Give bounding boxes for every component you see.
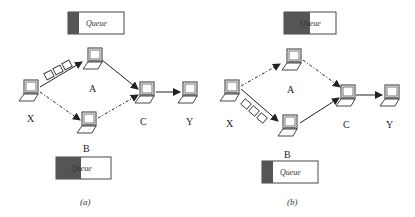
queue-b-bottom: Queue	[56, 157, 111, 179]
caption-a: (a)	[80, 197, 91, 207]
queue-b-bottom: Queue	[262, 161, 318, 183]
queue-a-top: Queue	[68, 12, 124, 34]
edge-a-c	[303, 60, 340, 87]
packets	[241, 99, 268, 124]
laptop-icon-y	[380, 85, 399, 106]
node-label-a: A	[89, 83, 97, 94]
laptop-icon-x	[220, 80, 239, 101]
laptop-icon-c	[336, 85, 355, 106]
edge-a-c	[102, 60, 138, 89]
node-label-x: X	[226, 118, 234, 129]
laptop-icon-c	[135, 82, 154, 103]
node-label-c: C	[343, 119, 350, 130]
laptop-icon-a	[282, 49, 301, 70]
diagram-b: Queue X A B C Y Queue (b)	[220, 12, 399, 207]
edge-b-c	[98, 95, 138, 118]
queue-label: Queue	[86, 19, 107, 28]
node-label-a: A	[287, 84, 295, 95]
node-label-y: Y	[386, 119, 393, 130]
diagram-a: Queue X A B C Y Queue (a)	[19, 12, 197, 207]
edge-x-b	[40, 92, 80, 120]
edge-x-a	[241, 64, 280, 86]
laptop-icon-x	[19, 80, 38, 101]
caption-b: (b)	[287, 197, 298, 207]
node-label-b: B	[83, 143, 90, 154]
laptop-icon-b	[77, 112, 96, 133]
node-label-x: X	[27, 113, 35, 124]
node-label-y: Y	[186, 116, 193, 127]
network-diagram: Queue X A B C Y Queue (a)	[0, 0, 415, 217]
edge-b-c	[300, 98, 339, 123]
node-label-c: C	[140, 116, 147, 127]
laptop-icon-y	[178, 82, 197, 103]
queue-label: Queue	[300, 19, 321, 28]
node-label-b: B	[284, 149, 291, 160]
laptop-icon-a	[83, 48, 102, 69]
queue-label: Queue	[71, 164, 92, 173]
queue-label: Queue	[280, 168, 301, 177]
laptop-icon-b	[278, 115, 297, 136]
queue-a-top: Queue	[284, 12, 336, 34]
